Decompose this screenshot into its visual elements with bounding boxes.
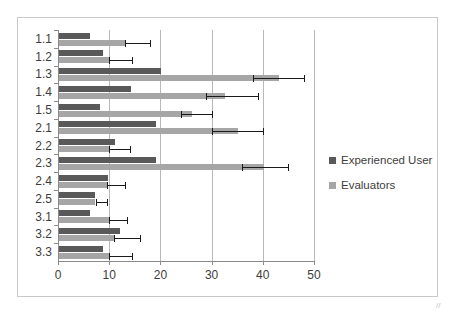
- error-bar-2.5: [96, 202, 106, 203]
- x-axis-line: [58, 261, 315, 262]
- bar-evaluators-1.5: [59, 111, 192, 117]
- error-cap-3.3-high: [132, 253, 133, 260]
- y-tick-label: 3.1: [35, 210, 52, 224]
- y-tick-label: 1.5: [35, 103, 52, 117]
- y-tick: [54, 30, 58, 31]
- bar-experienced-user-3.1: [59, 210, 90, 216]
- y-tick: [54, 154, 58, 155]
- error-bar-1.3: [253, 78, 304, 79]
- x-tick-label: 10: [103, 268, 116, 282]
- y-tick: [54, 243, 58, 244]
- bar-evaluators-1.4: [59, 93, 225, 99]
- y-tick: [54, 119, 58, 120]
- bar-evaluators-2.5: [59, 199, 95, 205]
- error-cap-1.5-high: [212, 111, 213, 118]
- error-cap-3.2-high: [140, 235, 141, 242]
- y-tick: [54, 137, 58, 138]
- y-tick: [54, 83, 58, 84]
- error-cap-1.1-high: [150, 40, 151, 47]
- y-tick: [54, 66, 58, 67]
- bar-evaluators-2.2: [59, 146, 110, 152]
- y-tick: [54, 190, 58, 191]
- y-tick: [54, 48, 58, 49]
- bar-experienced-user-2.2: [59, 139, 115, 145]
- y-tick: [54, 172, 58, 173]
- x-tick: [58, 261, 59, 265]
- gridline: [263, 30, 264, 261]
- error-cap-1.4-low: [206, 93, 207, 100]
- x-tick: [212, 261, 213, 265]
- bar-experienced-user-2.3: [59, 157, 156, 163]
- corner-watermark: //: [436, 301, 440, 310]
- error-bar-2.4: [107, 185, 125, 186]
- error-cap-3.1-high: [127, 217, 128, 224]
- error-cap-2.1-high: [263, 128, 264, 135]
- error-bar-3.1: [109, 220, 127, 221]
- bar-evaluators-1.3: [59, 75, 279, 81]
- bar-experienced-user-3.3: [59, 246, 103, 252]
- y-tick-label: 2.1: [35, 121, 52, 135]
- chart-frame: 1.11.21.31.41.52.12.22.32.42.53.13.23.3 …: [17, 17, 438, 297]
- y-tick-label: 2.4: [35, 174, 52, 188]
- error-cap-2.4-low: [107, 182, 108, 189]
- gridline: [314, 30, 315, 261]
- bar-experienced-user-1.3: [59, 68, 161, 74]
- x-tick: [263, 261, 264, 265]
- plot-area: 1.11.21.31.41.52.12.22.32.42.53.13.23.3 …: [58, 30, 314, 261]
- bar-evaluators-3.1: [59, 217, 110, 223]
- bar-experienced-user-3.2: [59, 228, 120, 234]
- bar-evaluators-2.4: [59, 182, 108, 188]
- legend-item-experienced-user[interactable]: Experienced User: [329, 154, 432, 166]
- error-bar-1.1: [125, 43, 151, 44]
- bar-experienced-user-2.4: [59, 175, 108, 181]
- y-tick-label: 3.2: [35, 227, 52, 241]
- error-bar-1.5: [181, 114, 212, 115]
- x-tick-label: 30: [205, 268, 218, 282]
- error-bar-3.3: [109, 256, 132, 257]
- x-tick-label: 40: [256, 268, 269, 282]
- bar-evaluators-2.3: [59, 164, 264, 170]
- chart-legend: Experienced UserEvaluators: [329, 154, 432, 204]
- y-tick-label: 2.5: [35, 192, 52, 206]
- legend-item-evaluators[interactable]: Evaluators: [329, 179, 432, 191]
- y-tick-label: 1.3: [35, 67, 52, 81]
- error-cap-3.1-low: [109, 217, 110, 224]
- x-tick: [109, 261, 110, 265]
- bar-evaluators-3.2: [59, 235, 115, 241]
- error-bar-2.1: [212, 131, 263, 132]
- error-cap-3.3-low: [109, 253, 110, 260]
- y-tick-label: 2.3: [35, 156, 52, 170]
- error-cap-2.2-low: [109, 146, 110, 153]
- y-tick-label: 1.2: [35, 50, 52, 64]
- bar-experienced-user-1.1: [59, 33, 90, 39]
- error-cap-1.4-high: [258, 93, 259, 100]
- y-tick-label: 1.1: [35, 32, 52, 46]
- bar-evaluators-1.1: [59, 40, 126, 46]
- y-tick-label: 2.2: [35, 139, 52, 153]
- error-cap-1.1-low: [125, 40, 126, 47]
- error-bar-3.2: [114, 238, 140, 239]
- error-cap-1.2-high: [132, 57, 133, 64]
- error-cap-1.5-low: [181, 111, 182, 118]
- bar-evaluators-3.3: [59, 253, 110, 259]
- x-tick-label: 0: [55, 268, 62, 282]
- error-cap-2.3-low: [242, 164, 243, 171]
- bar-experienced-user-2.5: [59, 192, 95, 198]
- y-tick-label: 3.3: [35, 245, 52, 259]
- error-cap-2.3-high: [288, 164, 289, 171]
- bar-experienced-user-1.2: [59, 50, 103, 56]
- y-tick: [54, 101, 58, 102]
- x-tick: [314, 261, 315, 265]
- error-bar-1.4: [206, 96, 257, 97]
- x-tick-label: 50: [307, 268, 320, 282]
- error-bar-2.3: [242, 167, 288, 168]
- x-tick-label: 20: [154, 268, 167, 282]
- error-cap-2.5-high: [107, 199, 108, 206]
- legend-swatch-icon: [329, 157, 336, 164]
- bar-experienced-user-1.4: [59, 86, 131, 92]
- error-cap-2.4-high: [125, 182, 126, 189]
- gridline: [160, 30, 161, 261]
- y-tick: [54, 225, 58, 226]
- gridline: [212, 30, 213, 261]
- error-cap-2.2-high: [130, 146, 131, 153]
